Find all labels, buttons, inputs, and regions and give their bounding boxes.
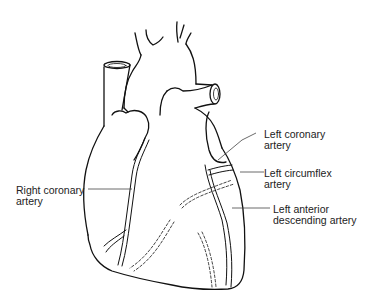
heart-diagram: [0, 0, 371, 303]
superior-vena-cava: [104, 62, 130, 127]
label-line: artery: [16, 196, 84, 207]
left-circumflex-vessel: [208, 165, 233, 175]
label-right-coronary-artery: Right coronary artery: [16, 185, 84, 207]
pulmonary-artery: [160, 84, 220, 115]
label-line: artery: [264, 140, 325, 151]
label-left-anterior-descending-artery: Left anterior descending artery: [273, 204, 356, 226]
label-left-circumflex-artery: Left circumflex artery: [264, 168, 332, 190]
lad-vessel: [205, 165, 232, 287]
label-line: artery: [264, 179, 332, 190]
right-atrium: [84, 126, 104, 235]
label-line: descending artery: [273, 215, 356, 226]
label-left-coronary-artery: Left coronary artery: [264, 129, 325, 151]
right-coronary-artery-vessel: [104, 138, 149, 266]
posterior-vessels-dashed: [130, 180, 234, 287]
aortic-branches: [135, 22, 191, 55]
leader-lines: [88, 133, 270, 208]
